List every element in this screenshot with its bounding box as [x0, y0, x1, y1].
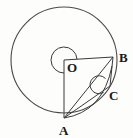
geometry-canvas: O A B C	[0, 0, 133, 138]
vertex-label-B: B	[119, 50, 128, 65]
geometry-figure: O A B C	[0, 0, 133, 138]
vertex-label-O: O	[67, 60, 77, 75]
vertex-label-C: C	[109, 88, 118, 103]
vertex-label-A: A	[59, 123, 69, 138]
